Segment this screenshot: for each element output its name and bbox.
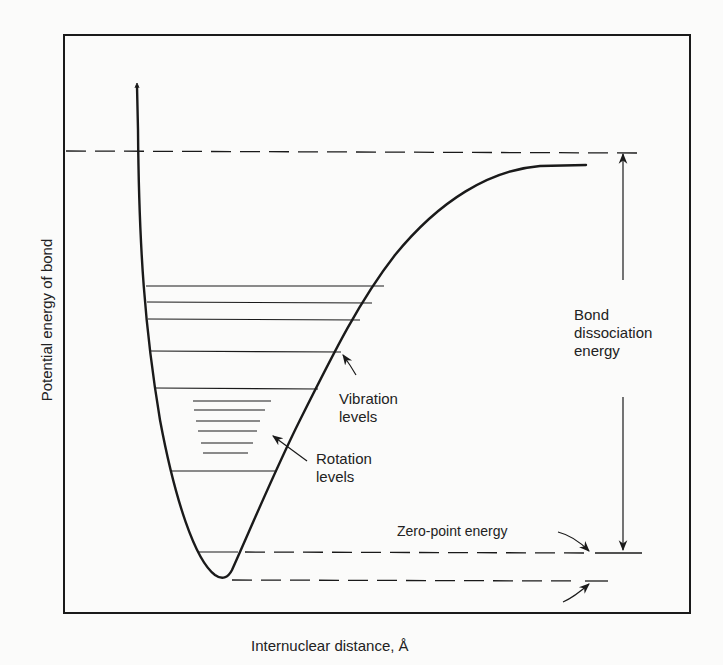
rotation-levels-label: Rotation levels (316, 450, 372, 486)
rotation-label-line2: levels (316, 468, 372, 486)
vibration-label-line1: Vibration (339, 390, 398, 408)
zero-point-level-line (245, 552, 590, 553)
vibration-label-line2: levels (339, 408, 398, 426)
bond-label-line2: dissociation (574, 324, 652, 342)
rotation-levels (193, 401, 271, 453)
vibration-pointer-arrow (343, 355, 356, 375)
y-axis-label: Potential energy of bond (38, 239, 55, 402)
well-bottom-pointer-arrow (563, 584, 589, 602)
well-bottom-line (232, 580, 580, 581)
zero-point-pointer-arrow (558, 532, 589, 551)
potential-curve (137, 86, 586, 578)
bond-label-line1: Bond (574, 306, 652, 324)
dissociation-limit-line (66, 151, 643, 153)
bond-dissociation-label: Bond dissociation energy (574, 306, 652, 360)
rotation-label-line1: Rotation (316, 450, 372, 468)
vibration-levels-label: Vibration levels (339, 390, 398, 426)
x-axis-label: Internuclear distance, Å (251, 637, 409, 655)
zero-point-energy-label: Zero-point energy (397, 522, 508, 540)
bond-label-line3: energy (574, 342, 652, 360)
